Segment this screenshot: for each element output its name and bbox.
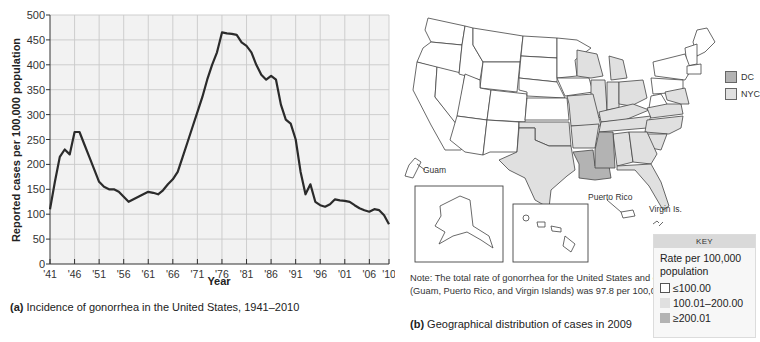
panel-b-map: Guam Puerto Rico Virgin Is. DC NYC Note:… — [395, 0, 759, 342]
key-header: KEY — [654, 235, 755, 248]
state-sd — [519, 56, 557, 82]
x-axis-label: Year — [207, 275, 231, 287]
state-nd — [521, 36, 557, 58]
legend-nyc: NYC — [725, 88, 760, 100]
panel-a-line-chart: 050100150200250300350400450500 '41'46'51… — [0, 0, 395, 342]
svg-text:'66: '66 — [166, 268, 180, 280]
dc-swatch — [725, 71, 737, 83]
nyc-label: NYC — [741, 89, 760, 99]
dc-label: DC — [741, 72, 754, 82]
svg-text:100: 100 — [27, 208, 45, 220]
svg-text:350: 350 — [27, 84, 45, 96]
map-key: KEY Rate per 100,000 population ≤100.00 … — [653, 234, 756, 338]
key-item-low: ≤100.00 — [654, 280, 755, 295]
svg-text:'06: '06 — [363, 268, 377, 280]
svg-text:'91: '91 — [289, 268, 303, 280]
state-ar — [571, 124, 599, 148]
state-in — [607, 82, 619, 110]
svg-text:'56: '56 — [117, 268, 131, 280]
svg-text:300: 300 — [27, 109, 45, 121]
state-ks — [525, 98, 569, 120]
panel-a-caption: (a) Incidence of gonorrhea in the United… — [10, 301, 299, 313]
svg-text:'71: '71 — [191, 268, 205, 280]
state-ms — [595, 132, 615, 168]
hawaii-inset — [513, 204, 588, 262]
svg-text:'96: '96 — [313, 268, 327, 280]
virgin-islands-label: Virgin Is. — [649, 204, 682, 214]
legend-dc: DC — [725, 71, 754, 83]
virgin-islands-shape — [653, 221, 663, 226]
state-ny — [653, 54, 691, 80]
svg-text:500: 500 — [27, 9, 45, 21]
state-oh — [619, 80, 647, 106]
panel-a-caption-text: Incidence of gonorrhea in the United Sta… — [23, 301, 299, 313]
panel-b-caption-label: (b) — [410, 318, 424, 330]
svg-text:'10: '10 — [382, 268, 395, 280]
puerto-rico-shape — [607, 200, 635, 218]
state-wy — [480, 62, 520, 92]
svg-text:'41: '41 — [43, 268, 57, 280]
svg-text:50: 50 — [33, 233, 45, 245]
state-co — [487, 90, 527, 122]
key-swatch-high — [660, 313, 670, 323]
state-nm — [483, 120, 519, 155]
guam-inset — [405, 158, 425, 178]
gonorrhea-incidence-chart: 050100150200250300350400450500 '41'46'51… — [0, 0, 395, 300]
state-wa — [425, 18, 465, 45]
panel-a-caption-label: (a) — [10, 301, 23, 313]
key-item-mid: 100.01–200.00 — [654, 295, 755, 310]
key-label-high: ≥200.01 — [673, 312, 711, 324]
svg-text:'51: '51 — [92, 268, 106, 280]
y-axis-ticks: 050100150200250300350400450500 — [27, 9, 50, 270]
svg-text:250: 250 — [27, 134, 45, 146]
state-mi — [609, 56, 627, 80]
alaska-inset — [415, 186, 503, 262]
svg-text:'46: '46 — [68, 268, 82, 280]
panel-b-caption: (b) Geographical distribution of cases i… — [410, 318, 632, 330]
y-axis-label: Reported cases per 100,000 population — [10, 38, 22, 242]
guam-label: Guam — [423, 165, 446, 175]
key-label-mid: 100.01–200.00 — [673, 297, 743, 309]
key-item-high: ≥200.01 — [654, 310, 755, 325]
state-nc — [645, 116, 683, 134]
key-title: Rate per 100,000 population — [654, 248, 755, 280]
svg-text:150: 150 — [27, 183, 45, 195]
panel-b-caption-text: Geographical distribution of cases in 20… — [424, 318, 632, 330]
puerto-rico-label: Puerto Rico — [588, 192, 632, 202]
svg-text:200: 200 — [27, 158, 45, 170]
svg-text:450: 450 — [27, 34, 45, 46]
svg-text:'86: '86 — [264, 268, 278, 280]
state-ma-ct — [687, 64, 701, 74]
svg-text:'01: '01 — [338, 268, 352, 280]
svg-text:'61: '61 — [141, 268, 155, 280]
nyc-swatch — [725, 88, 737, 100]
state-wi — [577, 50, 603, 78]
state-mt — [473, 28, 523, 62]
key-label-low: ≤100.00 — [673, 282, 711, 294]
svg-text:400: 400 — [27, 59, 45, 71]
us-choropleth-map — [395, 0, 759, 270]
svg-text:'81: '81 — [240, 268, 254, 280]
key-swatch-mid — [660, 298, 670, 308]
key-swatch-low — [660, 283, 670, 293]
